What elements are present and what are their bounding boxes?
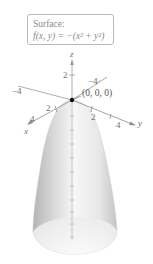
- y-tick-label-2: 2: [91, 112, 96, 122]
- x-axis-label: x: [24, 126, 28, 136]
- y-axis-label: y: [138, 118, 142, 128]
- x-tick-label-2: 2: [46, 103, 51, 113]
- neg-y-tick-label: −4: [88, 76, 98, 86]
- z-axis-arrow-icon: [70, 59, 74, 65]
- neg-x-tick-label: −4: [12, 86, 22, 96]
- neg-x-axis-line: [18, 86, 72, 100]
- paraboloid-plot: [0, 0, 153, 264]
- y-axis-arrow-icon: [129, 122, 136, 126]
- z-axis-label: z: [70, 49, 74, 59]
- z-tick-label-2: 2: [63, 70, 68, 80]
- y-tick-label-4: 4: [116, 120, 121, 130]
- origin-point: [70, 98, 74, 102]
- x-tick-label-4: 4: [30, 114, 35, 124]
- y-tick-4: [110, 114, 111, 119]
- origin-point-label: (0, 0, 0): [82, 88, 112, 98]
